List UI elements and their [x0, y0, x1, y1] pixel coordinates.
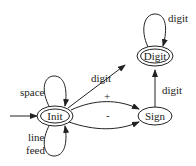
state-digit: Digit — [137, 46, 173, 66]
edge-init-to-sign-minus — [69, 122, 139, 129]
label-sign-digit: digit — [162, 84, 182, 96]
edge-digit-loop — [144, 14, 166, 47]
label-plus: + — [104, 90, 110, 102]
label-space: space — [20, 86, 45, 98]
state-digit-label: Digit — [144, 50, 167, 62]
label-feed: feed — [26, 144, 45, 156]
label-line: line — [28, 131, 45, 143]
state-init: Init — [37, 106, 73, 126]
edge-init-to-sign-plus — [71, 102, 139, 110]
label-digit-loop: digit — [168, 12, 188, 24]
state-sign: Sign — [138, 107, 172, 125]
edge-init-linefeed-loop — [44, 124, 66, 156]
state-diagram: space line feed digit + - digit digit In… — [0, 0, 196, 166]
state-sign-label: Sign — [145, 110, 166, 122]
label-init-digit: digit — [91, 72, 111, 84]
edge-init-space-loop — [44, 76, 66, 108]
state-init-label: Init — [47, 110, 62, 122]
label-minus: - — [106, 109, 110, 121]
